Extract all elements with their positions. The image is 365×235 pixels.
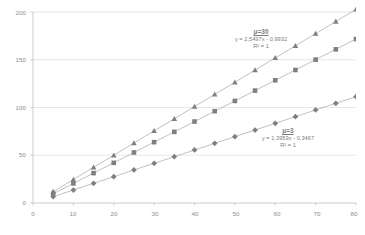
y-tick-label-200: 200 [4, 9, 26, 16]
y-tick-label-0: 0 [4, 199, 26, 206]
x-tick-label-0: 0 [24, 210, 42, 217]
x-tick-label-50: 50 [227, 210, 245, 217]
chart-plot-area [0, 0, 365, 235]
annotation-mu30-header: μ=30 [213, 28, 309, 36]
annotation-mu30: μ=30 y = 2,5497x - 0,9932 R² = 1 [213, 28, 309, 51]
annotation-mu30-equation: y = 2,5497x - 0,9932 [213, 36, 309, 43]
annotation-mu3-equation: y = 1,3959x - 0,3467 [240, 135, 336, 142]
x-tick-label-40: 40 [186, 210, 204, 217]
annotation-mu30-rsquared: R² = 1 [213, 43, 309, 50]
x-tick-label-10: 10 [64, 210, 82, 217]
y-tick-label-100: 100 [4, 104, 26, 111]
x-tick-label-60: 60 [268, 210, 286, 217]
y-tick-label-150: 150 [4, 56, 26, 63]
x-tick-label-80: 80 [345, 210, 363, 217]
x-tick-label-30: 30 [146, 210, 164, 217]
y-tick-label-50: 50 [4, 151, 26, 158]
x-tick-label-70: 70 [308, 210, 326, 217]
annotation-mu3: μ=3 y = 1,3959x - 0,3467 R² = 1 [240, 127, 336, 150]
annotation-mu3-header: μ=3 [240, 127, 336, 135]
annotation-mu3-rsquared: R² = 1 [240, 142, 336, 149]
chart-container: 200 150 100 50 0 0 10 20 30 40 50 60 70 … [0, 0, 365, 235]
x-tick-label-20: 20 [105, 210, 123, 217]
